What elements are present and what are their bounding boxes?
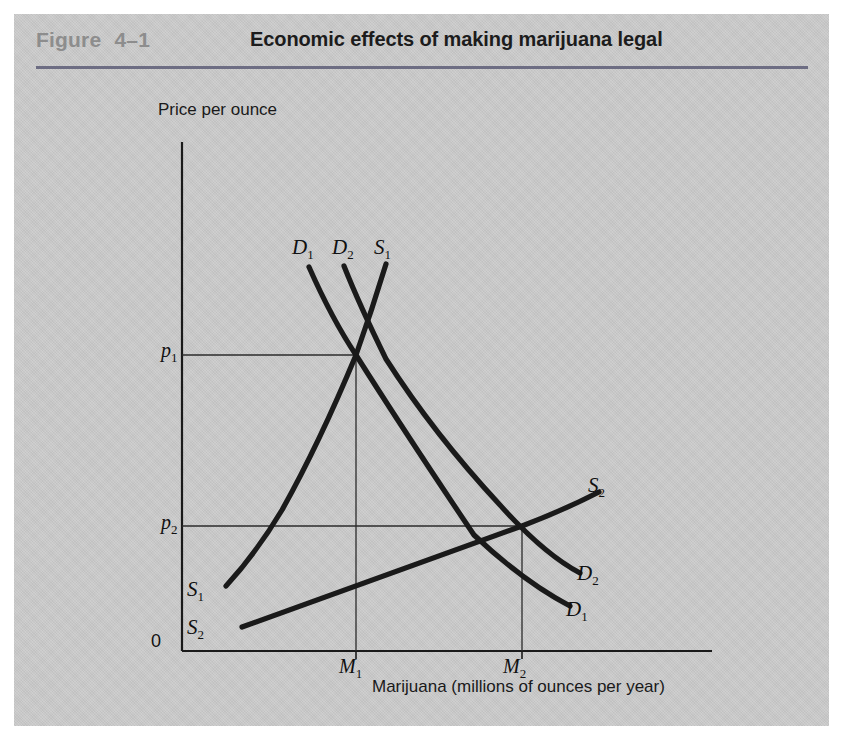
x-tick-m1-sub: 1 xyxy=(356,666,363,681)
y-tick-p1-base: p xyxy=(161,339,171,361)
curve-label-s2-right-base: S xyxy=(588,473,599,497)
origin-label: 0 xyxy=(151,631,161,652)
curve-label-d1-top-base: D xyxy=(292,235,307,259)
figure-panel: Figure4–1 Economic effects of making mar… xyxy=(14,14,829,726)
plot-area: Price per ounce Marijuana (millions of o… xyxy=(14,14,829,726)
chart-svg xyxy=(14,14,829,726)
y-tick-p2-sub: 2 xyxy=(171,522,178,537)
curve-label-d2-right-sub: 2 xyxy=(592,573,599,588)
curve-label-d1-right: D1 xyxy=(566,597,588,625)
curve-label-d1-top-sub: 1 xyxy=(307,247,314,262)
y-tick-label-p2: p2 xyxy=(161,511,178,538)
curve-label-s1-left-base: S xyxy=(187,577,198,601)
curve-d2 xyxy=(344,266,580,573)
x-tick-label-m1: M1 xyxy=(339,655,362,682)
curve-label-d1-top: D1 xyxy=(292,235,314,263)
curve-label-d2-right-base: D xyxy=(577,561,592,585)
curve-label-s1-top: S1 xyxy=(374,235,391,263)
y-axis-title: Price per ounce xyxy=(158,100,277,120)
curve-label-d2-top-sub: 2 xyxy=(347,247,354,262)
y-tick-label-p1: p1 xyxy=(161,339,178,366)
curve-label-s2-right-sub: 2 xyxy=(599,485,606,500)
curve-label-s1-top-base: S xyxy=(374,235,385,259)
curve-label-d2-top-base: D xyxy=(332,235,347,259)
x-tick-m2-base: M xyxy=(503,655,520,677)
y-tick-p1-sub: 1 xyxy=(171,350,178,365)
figure-container: Figure4–1 Economic effects of making mar… xyxy=(0,0,843,754)
curve-label-s1-top-sub: 1 xyxy=(385,247,392,262)
curve-label-s2-left-base: S xyxy=(187,615,198,639)
curve-label-s2-right: S2 xyxy=(588,473,605,501)
curve-s2 xyxy=(242,492,599,627)
curve-label-d1-right-sub: 1 xyxy=(581,609,588,624)
x-tick-marks xyxy=(356,651,522,659)
curve-label-s2-left: S2 xyxy=(187,615,204,643)
curve-label-s2-left-sub: 2 xyxy=(198,627,205,642)
x-tick-label-m2: M2 xyxy=(503,655,526,682)
x-tick-m2-sub: 2 xyxy=(520,666,527,681)
curve-label-d2-right: D2 xyxy=(577,561,599,589)
axis-lines xyxy=(182,142,712,651)
curve-label-s1-left-sub: 1 xyxy=(198,589,205,604)
curve-label-d2-top: D2 xyxy=(332,235,354,263)
curve-label-d1-right-base: D xyxy=(566,597,581,621)
x-tick-m1-base: M xyxy=(339,655,356,677)
y-tick-p2-base: p xyxy=(161,511,171,533)
guide-lines xyxy=(182,355,522,651)
curve-label-s1-left: S1 xyxy=(187,577,204,605)
